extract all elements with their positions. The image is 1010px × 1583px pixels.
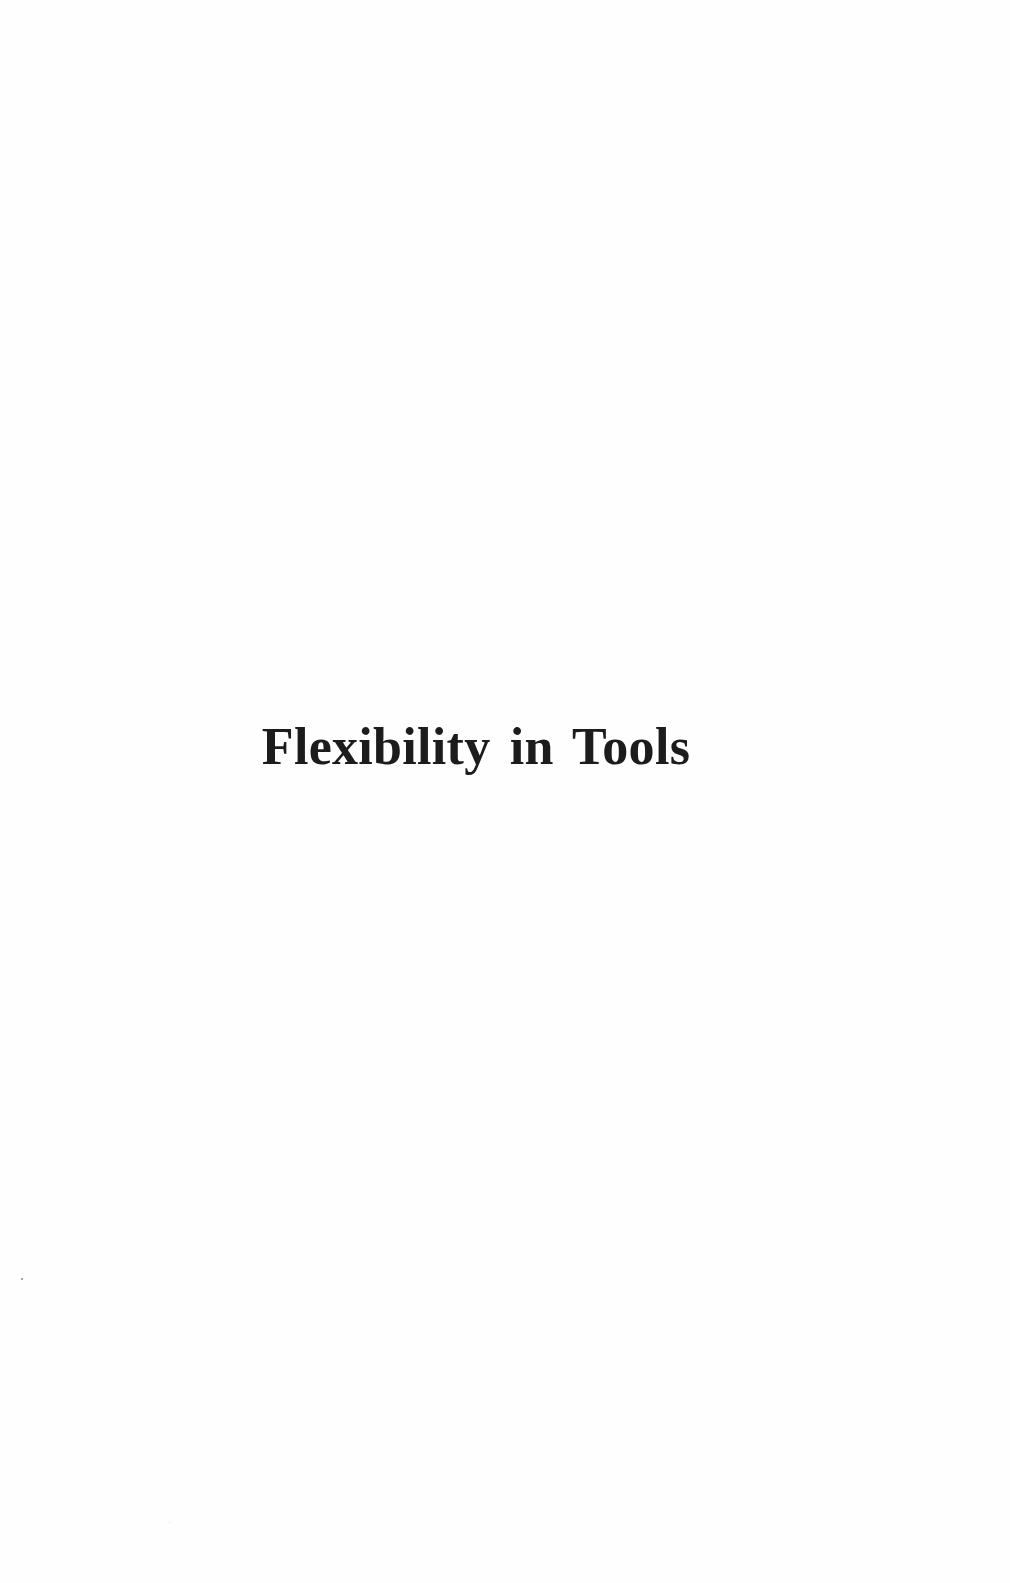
document-page: Flexibility in Tools [0, 0, 1010, 1583]
scan-speck [21, 1278, 23, 1280]
section-title: Flexibility in Tools [0, 715, 952, 779]
scan-speck [169, 1522, 170, 1523]
